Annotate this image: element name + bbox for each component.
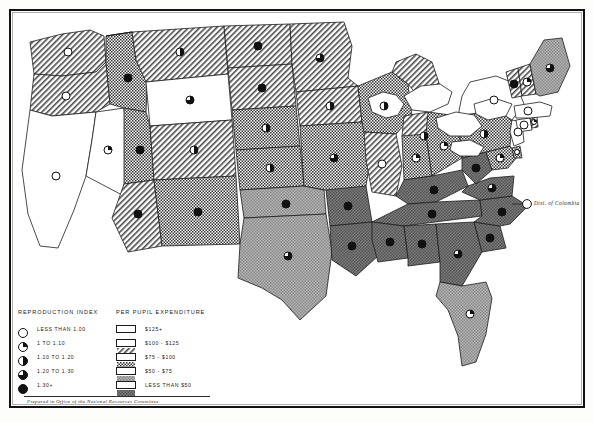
- symbol-nc: [498, 208, 506, 216]
- legend-right-row: LESS THAN $50: [116, 378, 216, 392]
- symbol-tn: [428, 210, 436, 218]
- symbol-wy: [186, 96, 194, 104]
- swatch-gray: [116, 367, 136, 375]
- circle-three-quarter-icon: [18, 366, 28, 376]
- state-fl: [436, 282, 492, 366]
- circle-half-icon: [18, 352, 28, 362]
- legend-right-label: $125+: [145, 326, 163, 332]
- circle-empty-icon: [18, 324, 28, 334]
- symbol-wv: [472, 164, 480, 172]
- legend-left-label: LESS THAN 1.00: [37, 326, 86, 332]
- symbol-sd: [258, 84, 266, 92]
- symbol-ok: [282, 200, 290, 208]
- circle-quarter-icon: [18, 338, 28, 348]
- symbol-in: [412, 154, 420, 162]
- swatch-darkgray: [116, 381, 136, 389]
- symbol-ca: [52, 172, 60, 180]
- symbol-ny: [490, 96, 498, 104]
- symbol-ar: [344, 202, 352, 210]
- symbol-co: [190, 146, 198, 154]
- symbol-mi: [420, 132, 428, 140]
- legend-left-row: 1 TO 1.10: [18, 336, 113, 350]
- symbol-ky: [430, 186, 438, 194]
- legend-per-pupil-expenditure: PER PUPIL EXPENDITURE $125+$100 - $125$7…: [116, 309, 216, 392]
- symbol-wa: [64, 48, 72, 56]
- symbol-oh: [440, 142, 448, 150]
- legend-left-row: LESS THAN 1.00: [18, 322, 113, 336]
- legend-left-row: 1.10 TO 1.20: [18, 350, 113, 364]
- symbol-pa: [480, 130, 488, 138]
- symbol-ne: [262, 124, 270, 132]
- symbol-ma: [524, 107, 532, 115]
- symbol-me: [546, 64, 554, 72]
- state-tx: [238, 214, 332, 320]
- legend-left-label: 1.30+: [37, 382, 53, 388]
- symbol-wi: [380, 102, 388, 110]
- symbol-al: [418, 240, 426, 248]
- credit-divider: [24, 396, 210, 397]
- figure-root: Dist. of Columbia REPRODUCTION INDEX LES…: [0, 0, 594, 422]
- symbol-ms: [386, 238, 394, 246]
- symbol-la: [348, 242, 356, 250]
- swatch-checker: [116, 353, 136, 361]
- symbol-tx: [284, 252, 292, 260]
- symbol-nd: [254, 42, 262, 50]
- legend-right-row: $50 - $75: [116, 364, 216, 378]
- legend-right-title: PER PUPIL EXPENDITURE: [116, 309, 216, 315]
- symbol-de: [515, 150, 520, 155]
- symbol-az: [134, 210, 142, 218]
- symbol-nv: [104, 146, 112, 154]
- symbol-or: [62, 92, 70, 100]
- legend-reproduction-index: REPRODUCTION INDEX LESS THAN 1.001 TO 1.…: [18, 309, 113, 392]
- legend-right-label: $100 - $125: [145, 340, 179, 346]
- legend-right-row: $75 - $100: [116, 350, 216, 364]
- symbol-nm: [194, 208, 202, 216]
- legend-right-row: $100 - $125: [116, 336, 216, 350]
- dc-annotation-label: Dist. of Columbia: [534, 200, 580, 206]
- credit-line: Prepared in Office of the National Resou…: [27, 399, 159, 404]
- symbol-ga: [454, 250, 462, 258]
- symbol-il: [378, 160, 386, 168]
- legend-right-label: $75 - $100: [145, 354, 176, 360]
- symbol-va: [488, 184, 496, 192]
- swatch-white: [116, 325, 136, 333]
- symbol-fl: [466, 310, 474, 318]
- legend-right-label: LESS THAN $50: [145, 382, 192, 388]
- symbol-ia: [326, 102, 334, 110]
- legend-right-row: $125+: [116, 322, 216, 336]
- symbol-ut: [136, 146, 144, 154]
- legend-left-label: 1 TO 1.10: [37, 340, 65, 346]
- symbol-id: [124, 74, 132, 82]
- symbol-ct: [520, 121, 528, 129]
- dc-marker-icon: [521, 198, 533, 210]
- symbol-vt: [510, 80, 518, 88]
- symbol-nj: [514, 128, 522, 136]
- swatch-hatch: [116, 339, 136, 347]
- legend-right-label: $50 - $75: [145, 368, 172, 374]
- symbol-md: [496, 154, 504, 162]
- symbol-ri: [532, 120, 537, 125]
- legend-left-label: 1.10 TO 1.20: [37, 354, 74, 360]
- symbol-mn: [316, 54, 324, 62]
- legend-left-label: 1.20 TO 1.30: [37, 368, 74, 374]
- symbol-mo: [330, 154, 338, 162]
- legend-left-row: 1.20 TO 1.30: [18, 364, 113, 378]
- legend-left-title: REPRODUCTION INDEX: [18, 309, 113, 315]
- symbol-sc: [486, 234, 494, 242]
- legend-left-row: 1.30+: [18, 378, 113, 392]
- symbol-mt: [176, 48, 184, 56]
- symbol-nh: [523, 78, 531, 86]
- circle-full-icon: [18, 380, 28, 390]
- symbol-ks: [266, 164, 274, 172]
